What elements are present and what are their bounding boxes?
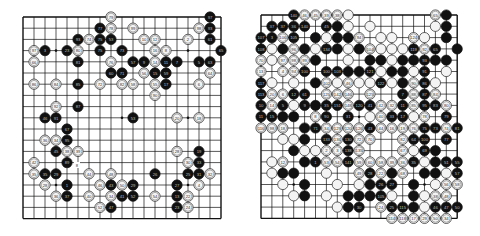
move-number: 87	[422, 92, 427, 97]
black-stone: 120	[354, 100, 364, 110]
white-stone: 48	[441, 191, 451, 201]
white-stone: 18	[278, 123, 288, 133]
black-stone: 50	[452, 202, 462, 212]
move-number: 44	[379, 126, 384, 131]
move-number: 117	[258, 81, 265, 86]
move-number: 27	[389, 182, 394, 187]
move-number: 70	[259, 58, 264, 63]
white-stone: 80	[441, 100, 451, 110]
white-stone	[387, 78, 397, 88]
move-number: 88	[411, 92, 416, 97]
move-number: 31	[346, 114, 351, 119]
black-stone	[343, 66, 353, 76]
black-stone	[408, 179, 418, 189]
black-stone: 81	[452, 123, 462, 133]
white-stone: 20	[267, 89, 277, 99]
move-number: 17	[400, 114, 405, 119]
white-stone: 2	[321, 145, 331, 155]
black-stone	[343, 32, 353, 42]
move-number: 140	[301, 24, 309, 29]
move-number: 146	[345, 92, 353, 97]
white-stone: 116	[256, 123, 266, 133]
white-stone	[398, 44, 408, 54]
move-number: 124	[410, 35, 418, 40]
black-stone: 113	[256, 89, 266, 99]
move-number: 30	[357, 205, 362, 210]
black-stone: 107	[256, 32, 266, 42]
black-stone: 45	[321, 21, 331, 31]
white-stone: 85	[408, 100, 418, 110]
white-stone	[430, 179, 440, 189]
black-stone: 141	[343, 157, 353, 167]
black-stone: 79	[441, 112, 451, 122]
black-stone: 37	[278, 21, 288, 31]
move-number: 45	[313, 13, 318, 18]
white-stone	[387, 44, 397, 54]
white-stone	[343, 44, 353, 54]
white-stone: 50	[430, 213, 440, 223]
move-number: 34	[444, 216, 449, 221]
move-number: 97	[280, 58, 285, 63]
move-number: 40	[379, 114, 384, 119]
white-stone: 34	[441, 213, 451, 223]
black-stone: 100	[419, 134, 429, 144]
move-number: 10	[259, 103, 264, 108]
move-number: 49	[357, 171, 362, 176]
black-stone: 91	[419, 66, 429, 76]
move-number: 140	[290, 13, 298, 18]
black-stone	[278, 44, 288, 54]
move-number: 18	[280, 126, 285, 131]
black-stone: 77	[441, 134, 451, 144]
white-stone	[408, 112, 418, 122]
move-number: 115	[399, 205, 406, 210]
move-number: 67	[400, 148, 405, 153]
white-stone: 118	[398, 213, 408, 223]
white-stone	[267, 157, 277, 167]
black-stone	[332, 21, 342, 31]
move-number: 39	[389, 160, 394, 165]
black-stone: 31	[343, 112, 353, 122]
white-stone	[289, 78, 299, 88]
move-number: 65	[433, 13, 438, 18]
move-number: 22	[379, 171, 384, 176]
move-number: 82	[400, 137, 405, 142]
white-stone: 39	[387, 157, 397, 167]
white-stone	[419, 202, 429, 212]
white-stone: 126	[354, 123, 364, 133]
black-stone	[289, 168, 299, 178]
black-stone	[310, 100, 320, 110]
white-stone	[387, 191, 397, 201]
white-stone: 12	[278, 157, 288, 167]
move-number: 36	[291, 24, 296, 29]
move-number: 114	[388, 216, 395, 221]
white-stone	[354, 78, 364, 88]
black-stone	[354, 66, 364, 76]
black-stone: 134	[321, 44, 331, 54]
move-number: 37	[280, 24, 285, 29]
black-stone	[419, 168, 429, 178]
move-number: 77	[444, 137, 449, 142]
move-number: 98	[291, 58, 296, 63]
move-number: 80	[444, 103, 449, 108]
white-stone: 13	[256, 66, 266, 76]
white-stone	[321, 168, 331, 178]
white-stone: 68	[398, 168, 408, 178]
black-stone: 64	[408, 134, 418, 144]
black-stone: 100	[321, 66, 331, 76]
black-stone: 33	[387, 112, 397, 122]
white-stone	[408, 66, 418, 76]
black-stone	[408, 191, 418, 201]
white-stone	[419, 191, 429, 201]
white-stone: 59	[354, 157, 364, 167]
move-number: 95	[422, 103, 427, 108]
move-number: 135	[356, 148, 364, 153]
white-stone	[343, 10, 353, 20]
move-number: 120	[345, 126, 353, 131]
white-stone: 99	[299, 55, 309, 65]
white-stone: 94	[289, 66, 299, 76]
black-stone	[278, 112, 288, 122]
move-number: 138	[345, 148, 353, 153]
white-stone: 136	[332, 134, 342, 144]
white-stone: 125	[321, 89, 331, 99]
white-stone: 129	[332, 123, 342, 133]
